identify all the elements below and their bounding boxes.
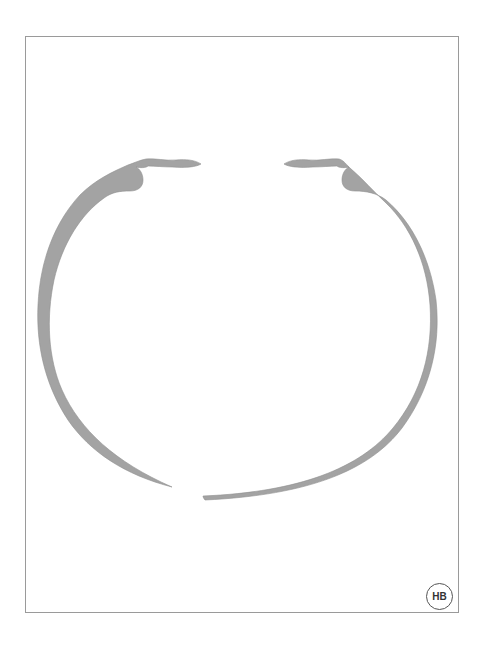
hb-badge: HB: [426, 583, 453, 610]
right-arc-shape: [203, 159, 437, 500]
hb-badge-label: HB: [432, 591, 446, 602]
left-arc-shape: [38, 159, 201, 487]
figure-illustration: [0, 0, 485, 646]
